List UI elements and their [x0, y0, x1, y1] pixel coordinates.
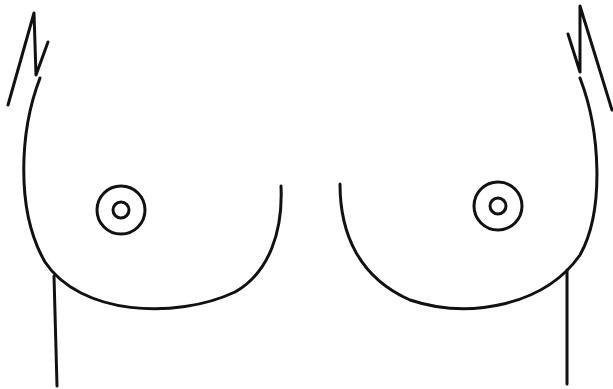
- right-outer-circle: [474, 182, 522, 230]
- left-outer-circle: [97, 186, 145, 234]
- left-vertical-line: [54, 276, 57, 386]
- left-contour: [24, 78, 281, 309]
- right-side-outline: [340, 6, 612, 384]
- left-inner-circle: [113, 202, 129, 218]
- right-inner-circle: [490, 198, 506, 214]
- diagram-canvas: [0, 0, 613, 389]
- anatomical-outline-diagram: [0, 0, 613, 389]
- right-contour: [340, 78, 597, 309]
- left-upper-contour: [8, 13, 48, 105]
- right-upper-contour: [568, 6, 612, 110]
- left-side-outline: [8, 13, 281, 386]
